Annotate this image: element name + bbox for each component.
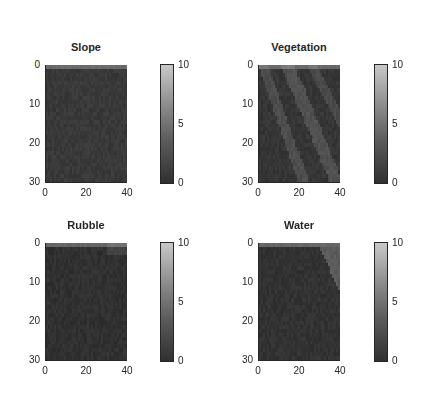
heatmap-axes	[45, 65, 127, 183]
y-tick: 30	[233, 177, 253, 187]
colorbar-tick: 5	[178, 297, 184, 307]
y-tick: 10	[233, 99, 253, 109]
y-tick: 10	[233, 277, 253, 287]
colorbar-tick: 10	[178, 60, 189, 70]
y-tick: 0	[233, 238, 253, 248]
x-tick: 40	[117, 188, 137, 198]
x-tick: 40	[330, 188, 350, 198]
subplot-title: Slope	[26, 41, 146, 53]
y-tick: 10	[20, 277, 40, 287]
colorbar-tick: 5	[392, 297, 398, 307]
y-tick: 0	[20, 60, 40, 70]
colorbar	[374, 242, 388, 362]
subplot-title: Water	[239, 219, 359, 231]
x-tick: 0	[248, 188, 268, 198]
colorbar-tick: 5	[178, 119, 184, 129]
x-tick: 0	[248, 366, 268, 376]
y-tick: 20	[20, 138, 40, 148]
y-tick: 20	[20, 316, 40, 326]
y-tick: 30	[20, 355, 40, 365]
y-tick: 0	[20, 238, 40, 248]
colorbar	[160, 64, 174, 184]
colorbar-tick: 0	[392, 356, 398, 366]
subplot-title: Vegetation	[239, 41, 359, 53]
x-tick: 40	[117, 366, 137, 376]
heatmap-axes	[258, 243, 340, 361]
colorbar-tick: 10	[392, 238, 403, 248]
colorbar	[374, 64, 388, 184]
x-tick: 20	[289, 188, 309, 198]
colorbar-tick: 0	[178, 356, 184, 366]
y-tick: 20	[233, 316, 253, 326]
colorbar-tick: 10	[392, 60, 403, 70]
y-tick: 20	[233, 138, 253, 148]
x-tick: 20	[289, 366, 309, 376]
x-tick: 0	[35, 188, 55, 198]
colorbar-tick: 0	[392, 178, 398, 188]
subplot-title: Rubble	[26, 219, 146, 231]
y-tick: 0	[233, 60, 253, 70]
y-tick: 10	[20, 99, 40, 109]
x-tick: 40	[330, 366, 350, 376]
y-tick: 30	[20, 177, 40, 187]
y-tick: 30	[233, 355, 253, 365]
x-tick: 20	[76, 366, 96, 376]
x-tick: 0	[35, 366, 55, 376]
colorbar-tick: 5	[392, 119, 398, 129]
colorbar-tick: 10	[178, 238, 189, 248]
x-tick: 20	[76, 188, 96, 198]
colorbar	[160, 242, 174, 362]
heatmap-axes	[258, 65, 340, 183]
heatmap-axes	[45, 243, 127, 361]
colorbar-tick: 0	[178, 178, 184, 188]
